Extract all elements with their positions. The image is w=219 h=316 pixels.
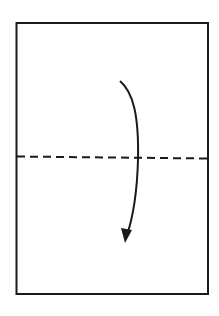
fold-diagram: [0, 0, 219, 316]
